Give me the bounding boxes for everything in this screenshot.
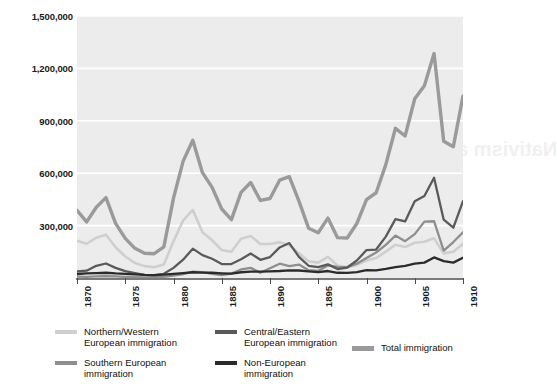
legend-label-central-eastern-european-immigration: Central/Eastern European immigration <box>244 326 337 348</box>
legend-swatch-southern-european-immigration <box>55 361 77 365</box>
chart-figure: Nativism and the Cry for Immigration Res… <box>0 0 487 320</box>
legend-label-total-immigration: Total immigration <box>381 342 453 353</box>
x-axis-tick-label: 1875 <box>130 286 141 307</box>
legend-swatch-northern-western-european-immigration <box>55 330 77 334</box>
x-axis-tick <box>415 278 416 284</box>
plot-svg <box>77 16 463 278</box>
gridlines <box>77 16 463 226</box>
series-line-total-immigration <box>77 54 463 254</box>
x-axis-tick <box>318 278 319 284</box>
chart-legend: Northern/Western European immigrationSou… <box>0 326 487 388</box>
x-axis-ticks: 187018751880188518901895190019051910 <box>0 278 487 320</box>
x-axis-tick-label: 1895 <box>323 286 334 307</box>
x-axis-tick <box>174 278 175 284</box>
legend-label-non-european-immigration: Non-European immigration <box>244 357 306 379</box>
legend-item-southern-european-immigration[interactable]: Southern European immigration <box>55 357 205 379</box>
y-axis-tick-label: 900,000 <box>39 115 73 126</box>
y-axis-tick-label: 1,500,000 <box>32 11 73 22</box>
series-line-northern-western-european-immigration <box>77 210 463 267</box>
x-axis-tick <box>463 278 464 284</box>
x-axis-tick-label: 1905 <box>420 286 431 307</box>
x-axis-tick-label: 1885 <box>227 286 238 307</box>
x-axis-tick-label: 1870 <box>82 286 93 307</box>
y-axis-tick-label: 1,200,000 <box>32 63 73 74</box>
y-axis-labels: 1,500,0001,200,000900,000600,000300,000 <box>0 0 73 300</box>
x-axis-tick-label: 1880 <box>179 286 190 307</box>
y-axis-tick-label: 300,000 <box>39 220 73 231</box>
legend-swatch-non-european-immigration <box>215 361 237 365</box>
x-axis-tick <box>367 278 368 284</box>
x-axis-tick-label: 1910 <box>468 286 479 307</box>
x-axis-tick-label: 1890 <box>275 286 286 307</box>
x-axis-tick <box>270 278 271 284</box>
plot-area <box>77 16 463 278</box>
legend-item-total-immigration[interactable]: Total immigration <box>352 342 482 353</box>
y-axis-tick-label: 600,000 <box>39 168 73 179</box>
data-series-group <box>77 54 463 278</box>
legend-label-southern-european-immigration: Southern European immigration <box>84 357 166 379</box>
x-axis-tick <box>125 278 126 284</box>
x-axis-tick-label: 1900 <box>372 286 383 307</box>
legend-label-northern-western-european-immigration: Northern/Western European immigration <box>84 326 177 348</box>
legend-item-northern-western-european-immigration[interactable]: Northern/Western European immigration <box>55 326 205 348</box>
legend-swatch-central-eastern-european-immigration <box>215 330 237 334</box>
legend-item-non-european-immigration[interactable]: Non-European immigration <box>215 357 365 379</box>
x-axis-tick <box>77 278 78 284</box>
x-axis-tick <box>222 278 223 284</box>
legend-swatch-total-immigration <box>352 346 374 351</box>
legend-item-central-eastern-european-immigration[interactable]: Central/Eastern European immigration <box>215 326 365 348</box>
